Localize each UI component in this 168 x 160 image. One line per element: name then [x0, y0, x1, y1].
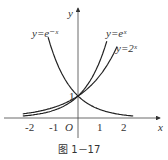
exponential-graph: y x O -2 -1 1 2 1 y=e⁻ˣ y=eˣ y=2ˣ 图 1－17 — [0, 0, 168, 160]
curve-2-x — [23, 47, 117, 114]
origin-label: O — [65, 121, 73, 133]
figure-caption: 图 1－17 — [58, 144, 100, 155]
x-tick-2: 2 — [121, 121, 127, 133]
x-tick-1: 1 — [97, 121, 103, 133]
x-tick-neg2: -2 — [25, 121, 34, 133]
y-axis-label: y — [67, 7, 73, 19]
curve-label-e-neg-x: y=e⁻ˣ — [31, 27, 59, 39]
x-axis-label: x — [157, 121, 163, 133]
y-tick-1: 1 — [69, 90, 75, 102]
curve-label-2-x: y=2ˣ — [115, 42, 138, 54]
curve-label-e-x: y=eˣ — [105, 27, 127, 39]
x-tick-neg1: -1 — [49, 121, 58, 133]
